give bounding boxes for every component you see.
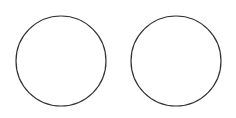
diagram-canvas [0,0,236,118]
right-circle [131,16,221,106]
left-circle [16,16,106,106]
